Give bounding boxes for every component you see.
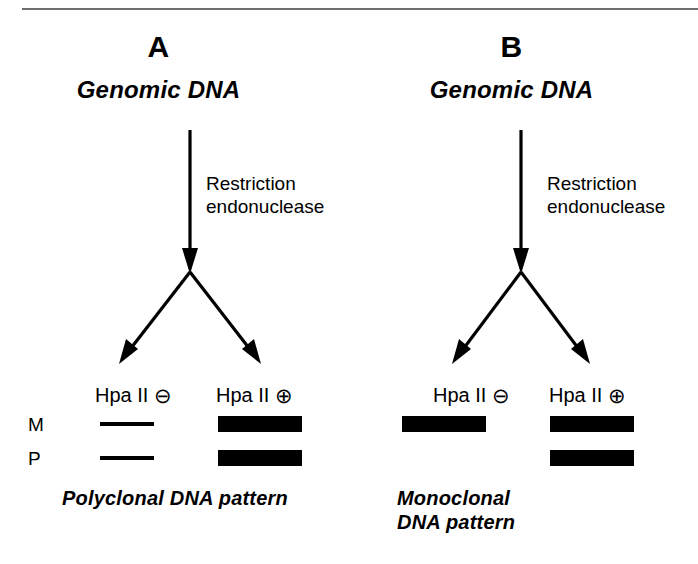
panel-b-lane-label-positive: Hpa II	[549, 384, 602, 406]
panel-a-band-m-negative	[100, 422, 154, 426]
panel-a-pattern-caption: Polyclonal DNA pattern	[62, 486, 288, 510]
panel-a-lane-header-hpa2-negative: Hpa II ⊖	[95, 383, 172, 408]
panel-b-arrow-group	[349, 0, 698, 564]
panel-a-lane-header-hpa2-positive: Hpa II ⊕	[216, 383, 293, 408]
panel-a-arrow-group	[0, 0, 349, 564]
panel-a-branch-arrow-right	[190, 272, 261, 364]
circled-minus-icon: ⊖	[154, 384, 172, 407]
panel-b-lane-header-hpa2-negative: Hpa II ⊖	[433, 383, 510, 408]
panel-a: A Genomic DNA Restriction endonuclease H…	[0, 0, 349, 564]
panel-a-band-m-positive	[218, 416, 302, 432]
panel-a-lane-label-negative: Hpa II	[95, 384, 148, 406]
panel-b-branch-arrow-left	[452, 272, 521, 364]
panel-a-lane-label-positive: Hpa II	[216, 384, 269, 406]
panel-a-vertical-arrow	[182, 130, 198, 274]
panel-a-band-p-negative	[100, 456, 154, 460]
panel-b-pattern-caption: Monoclonal DNA pattern	[397, 486, 515, 534]
panel-a-band-p-positive	[218, 450, 302, 466]
panel-a-row-label-p: P	[28, 448, 41, 470]
figure-canvas: A Genomic DNA Restriction endonuclease H…	[0, 0, 698, 564]
circled-plus-icon: ⊕	[275, 384, 293, 407]
circled-minus-icon: ⊖	[492, 384, 510, 407]
panel-a-row-label-m: M	[28, 414, 44, 436]
panel-b-lane-header-hpa2-positive: Hpa II ⊕	[549, 383, 626, 408]
circled-plus-icon: ⊕	[608, 384, 626, 407]
panel-b: B Genomic DNA Restriction endonuclease H…	[349, 0, 698, 564]
panel-a-branch-arrow-left	[119, 272, 190, 364]
panel-b-enzyme-label: Restriction endonuclease	[547, 172, 665, 218]
panel-b-band-p-positive	[550, 450, 634, 466]
panel-b-branch-arrow-right	[521, 272, 590, 364]
panel-b-lane-label-negative: Hpa II	[433, 384, 486, 406]
panel-b-band-m-positive	[550, 416, 634, 432]
panel-b-band-m-negative	[402, 416, 486, 432]
panel-a-enzyme-label: Restriction endonuclease	[206, 172, 324, 218]
panel-b-vertical-arrow	[513, 130, 529, 274]
